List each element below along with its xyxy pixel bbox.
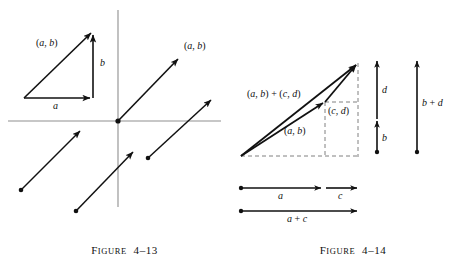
label-segment-a: a (278, 191, 283, 201)
translated-vector-lower-left (19, 131, 80, 192)
label-origin-vector-ab: (a, b) (184, 41, 206, 51)
segment-b-plus-d (415, 61, 419, 154)
label-vector-ab: (a, b) (284, 126, 306, 136)
label-segment-a-plus-c: a + c (287, 214, 307, 224)
label-triangle-horizontal-a: a (53, 101, 58, 111)
vector-ab (241, 103, 323, 156)
origin-vector (118, 59, 178, 121)
translated-vector-lower-middle (74, 152, 133, 213)
translated-vector-lower-right (146, 100, 211, 160)
figure-4-14-caption: FIGURE 4–14 (229, 232, 457, 265)
label-segment-d: d (382, 85, 387, 95)
figure-4-14-panel: (a, b) + (c, d) (a, b) (c, d) b d b + d … (229, 0, 457, 265)
vector-cd (325, 65, 356, 102)
label-segment-b-plus-d: b + d (422, 98, 443, 108)
label-vector-cd: (c, d) (328, 106, 349, 116)
label-triangle-hypotenuse-ab: (a, b) (36, 38, 58, 48)
segment-b (375, 121, 379, 154)
label-sum-vector: (a, b) + (c, d) (247, 89, 300, 99)
figure-4-13-caption: FIGURE 4–13 (0, 232, 229, 265)
label-segment-b: b (382, 133, 387, 143)
label-triangle-vertical-b: b (100, 58, 105, 68)
figure-page: (a, b) b a (a, b) FIGURE 4–13 (0, 0, 457, 265)
label-segment-c: c (338, 191, 342, 201)
figure-4-13-panel: (a, b) b a (a, b) FIGURE 4–13 (0, 0, 229, 265)
figure-4-14-graphic (229, 0, 457, 265)
